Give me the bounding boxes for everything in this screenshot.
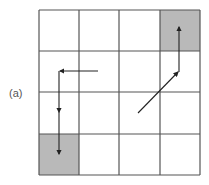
shaded-cell-top-right	[160, 10, 200, 51]
grid-diagram	[0, 0, 209, 185]
